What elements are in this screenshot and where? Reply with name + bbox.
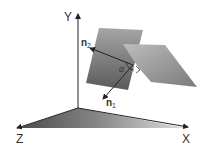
y-axis-label: Y [64, 10, 72, 24]
x-axis-label: X [182, 132, 190, 146]
n1-label: n1 [106, 97, 116, 109]
z-axis-label: Z [16, 132, 23, 146]
angle-alpha-label: α [119, 63, 125, 74]
xz-floor-plane [18, 108, 186, 128]
n2-label: n2 [81, 37, 91, 49]
two-planes-diagram: Y Z X n2 n1 α [0, 0, 208, 153]
